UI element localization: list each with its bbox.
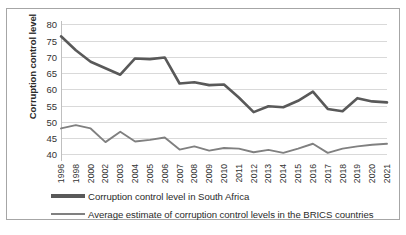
- x-tick-label: 2007: [175, 164, 185, 183]
- x-tick-label: 2018: [338, 164, 348, 183]
- x-tick-label: 2020: [367, 164, 377, 183]
- y-tick-label: 60: [46, 84, 57, 95]
- y-tick-label: 40: [46, 149, 57, 160]
- legend-color-swatch: [51, 213, 85, 215]
- y-tick-label: 80: [46, 19, 57, 30]
- y-tick-label: 50: [46, 116, 57, 127]
- y-tick-label: 55: [46, 100, 57, 111]
- legend-item[interactable]: Average estimate of corruption control l…: [51, 205, 391, 223]
- legend-color-swatch: [51, 194, 85, 197]
- plot-area: 404550556065707580 199619982000200220032…: [61, 21, 387, 161]
- legend-label: Corruption control level in South Africa: [88, 191, 249, 202]
- x-tick-label: 2013: [263, 164, 273, 183]
- x-tick-label: 2002: [100, 164, 110, 183]
- y-tick-label: 65: [46, 68, 57, 79]
- x-tick-label: 2015: [293, 164, 303, 183]
- x-tick-label: 1998: [71, 164, 81, 183]
- x-tick-label: 1996: [56, 164, 66, 183]
- x-tick-label: 2017: [323, 164, 333, 183]
- chart-legend: Corruption control level in South Africa…: [51, 187, 391, 223]
- x-tick-label: 2019: [352, 164, 362, 183]
- legend-label: Average estimate of corruption control l…: [88, 209, 373, 220]
- x-tick-label: 2012: [249, 164, 259, 183]
- x-tick-label: 2006: [160, 164, 170, 183]
- y-tick-label: 45: [46, 133, 57, 144]
- series-line: [61, 36, 387, 112]
- x-tick-label: 2016: [308, 164, 318, 183]
- chart-figure: Corruption control level 404550556065707…: [6, 8, 400, 220]
- series-lines: [61, 21, 387, 161]
- x-tick-label: 2008: [189, 164, 199, 183]
- x-tick-label: 2010: [219, 164, 229, 183]
- legend-item[interactable]: Corruption control level in South Africa: [51, 187, 391, 205]
- y-tick-label: 75: [46, 35, 57, 46]
- series-line: [61, 125, 387, 153]
- x-tick-label: 2009: [204, 164, 214, 183]
- x-tick-label: 2014: [278, 164, 288, 183]
- y-axis-title: Corruption control level: [27, 0, 38, 137]
- y-tick-label: 70: [46, 51, 57, 62]
- x-tick-label: 2005: [145, 164, 155, 183]
- x-tick-label: 2011: [234, 164, 244, 182]
- x-tick-label: 2004: [130, 164, 140, 183]
- x-tick-label: 2000: [86, 164, 96, 183]
- x-tick-label: 2003: [115, 164, 125, 183]
- x-tick-label: 2021: [382, 164, 392, 183]
